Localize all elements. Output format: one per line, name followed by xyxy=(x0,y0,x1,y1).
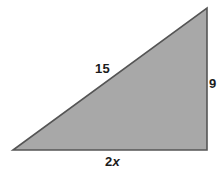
horizontal-leg-variable: x xyxy=(112,154,119,169)
hypotenuse-length-label: 15 xyxy=(95,62,110,75)
right-triangle-figure: 15 9 2x xyxy=(0,0,224,169)
horizontal-leg-length-label: 2x xyxy=(105,155,120,168)
triangle-polygon xyxy=(13,8,207,150)
triangle-shape xyxy=(0,0,224,169)
vertical-leg-length-label: 9 xyxy=(209,77,216,90)
